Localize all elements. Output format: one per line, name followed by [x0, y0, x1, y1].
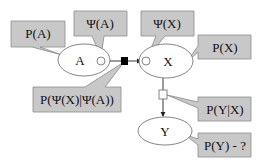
diagram-canvas: P(A) Ψ(A) Ψ(X) P(X) P(Ψ(X)|Ψ(A)) P(Y|X) …	[0, 0, 266, 167]
node-x: X	[139, 44, 193, 78]
callout-p-y-given-x: P(Y|X)	[167, 95, 251, 121]
node-y-label: Y	[160, 124, 170, 139]
callout-p-a-text: P(A)	[25, 26, 50, 41]
factor-square-filled	[121, 57, 128, 65]
node-y: Y	[138, 117, 192, 145]
factor-square-open	[159, 90, 167, 99]
node-a-label: A	[75, 53, 85, 68]
node-x-label: X	[163, 54, 173, 69]
port-circle-x	[142, 57, 150, 65]
callout-p-x-text: P(X)	[212, 40, 237, 55]
node-a: A	[58, 44, 110, 76]
callout-psi-a-text: Ψ(A)	[86, 16, 114, 31]
callout-p-a: P(A)	[11, 21, 65, 55]
callout-p-y-query-text: P(Y) - ?	[204, 138, 246, 153]
callout-p-psi-x-given-psi-a-text: P(Ψ(X)|Ψ(A))	[40, 92, 114, 107]
callout-p-y-given-x-text: P(Y|X)	[206, 102, 243, 117]
callout-p-x: P(X)	[186, 35, 251, 63]
callout-p-y-query: P(Y) - ?	[184, 133, 251, 157]
callout-psi-x-text: Ψ(X)	[153, 16, 181, 31]
port-circle-a	[97, 57, 105, 65]
